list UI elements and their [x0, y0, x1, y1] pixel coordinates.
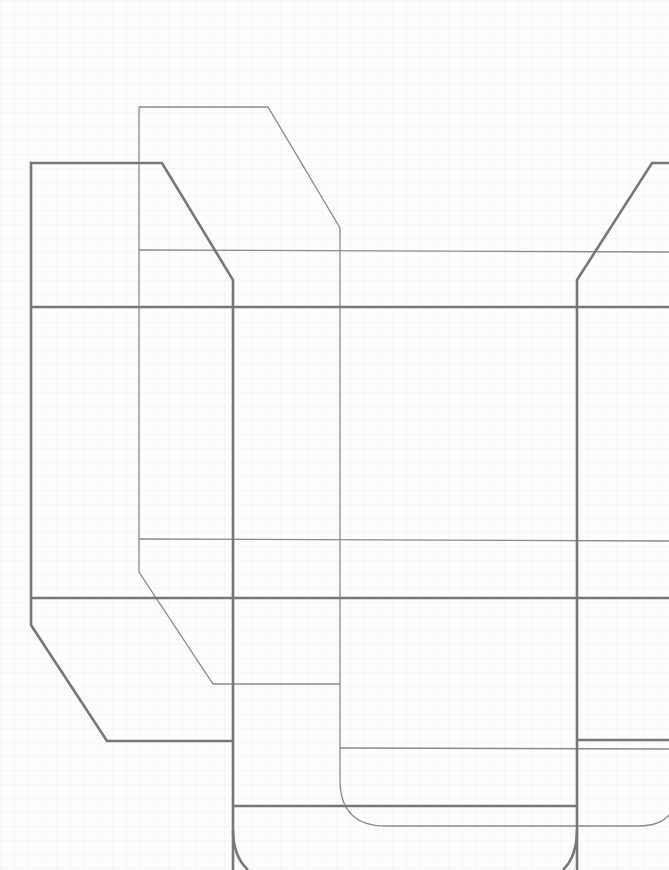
fold-line: [139, 107, 669, 826]
fold-line: [340, 748, 669, 749]
cut-line: [233, 830, 248, 870]
dieline-drawing: [0, 0, 669, 870]
cut-line: [563, 830, 577, 870]
light-fold-lines: [139, 107, 669, 826]
cut-line: [577, 163, 669, 870]
fold-line: [139, 250, 669, 252]
dieline-canvas: [0, 0, 669, 870]
heavy-cut-lines: [31, 163, 669, 870]
cut-line: [31, 163, 233, 870]
fold-line: [139, 539, 669, 541]
